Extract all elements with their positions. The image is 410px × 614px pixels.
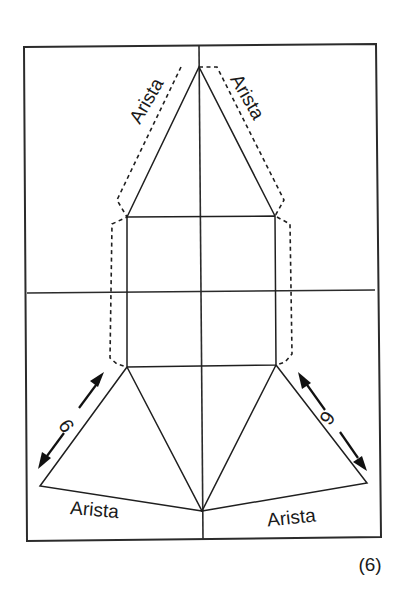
- vertical-center-line: [199, 46, 203, 539]
- bottom-left-triangle: [40, 367, 202, 511]
- edge-label-top-left: Arista: [125, 74, 168, 127]
- right-dimension-label: 9: [315, 407, 339, 429]
- figure-number: (6): [358, 554, 381, 575]
- pattern-diagram: 9 9 Arista Arista Arista Arista (6): [0, 0, 410, 614]
- bottom-right-triangle: [202, 365, 367, 511]
- edge-label-bottom-left: Arista: [69, 497, 120, 522]
- edge-label-top-right: Arista: [226, 70, 269, 123]
- left-dimension-label: 9: [54, 415, 78, 437]
- edge-label-bottom-right: Arista: [266, 505, 317, 531]
